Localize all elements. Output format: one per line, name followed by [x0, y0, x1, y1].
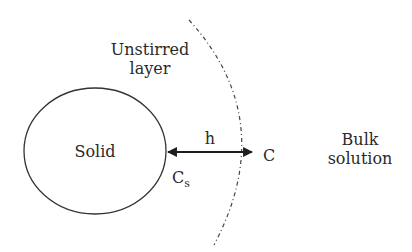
bulk-line2: solution — [318, 149, 402, 168]
bulk-concentration-label: C — [261, 146, 277, 165]
solid-label: Solid — [65, 142, 125, 161]
unstirred-line2: layer — [102, 59, 198, 78]
unstirred-line1: Unstirred — [102, 40, 198, 59]
surface-conc-main: C — [172, 168, 184, 187]
bulk-line1: Bulk — [318, 130, 402, 149]
unstirred-layer-label: Unstirred layer — [102, 40, 198, 78]
surface-conc-subscript: s — [184, 177, 190, 190]
surface-concentration-label: Cs — [166, 168, 196, 193]
diagram-canvas — [0, 0, 412, 252]
thickness-label: h — [200, 129, 220, 148]
bulk-solution-label: Bulk solution — [318, 130, 402, 168]
